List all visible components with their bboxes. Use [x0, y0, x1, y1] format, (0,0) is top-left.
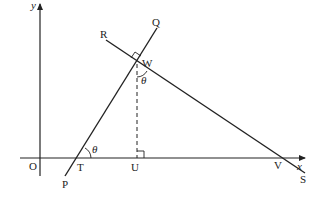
point-label-q: Q: [152, 16, 160, 28]
angle-label-w: θ: [141, 74, 147, 86]
y-axis-label: y: [30, 0, 36, 11]
point-label-r: R: [100, 28, 108, 40]
point-label-o: O: [29, 160, 37, 172]
x-axis-label: x: [296, 160, 302, 172]
right-angle-marker-u: [137, 151, 144, 158]
point-label-w: W: [142, 57, 153, 69]
line-pq: [65, 28, 157, 176]
point-label-v: V: [274, 159, 282, 171]
line-rs: [106, 40, 305, 173]
geometry-diagram: y x O T U V W P Q R S θ θ: [0, 0, 326, 198]
angle-label-t: θ: [92, 143, 98, 155]
point-label-p: P: [62, 178, 68, 190]
angle-arc-t: [85, 148, 91, 158]
point-label-u: U: [131, 161, 139, 173]
point-label-t: T: [77, 161, 84, 173]
point-label-s: S: [300, 173, 306, 185]
